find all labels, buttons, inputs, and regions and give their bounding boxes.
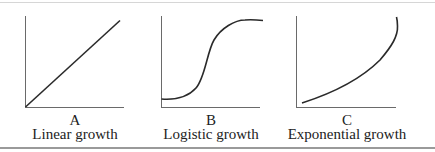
logistic-growth-curve xyxy=(162,20,264,99)
panel-b-caption: Logistic growth xyxy=(141,127,281,142)
panel-a-plot xyxy=(25,16,124,108)
exponential-growth-curve xyxy=(302,17,398,103)
panel-c-caption: Exponential growth xyxy=(277,127,417,142)
bottom-rule xyxy=(0,147,435,149)
linear-growth-curve xyxy=(26,21,121,108)
panel-a-caption: Linear growth xyxy=(5,127,145,142)
panel-c-plot xyxy=(296,16,398,108)
panel-b-plot xyxy=(161,16,263,108)
